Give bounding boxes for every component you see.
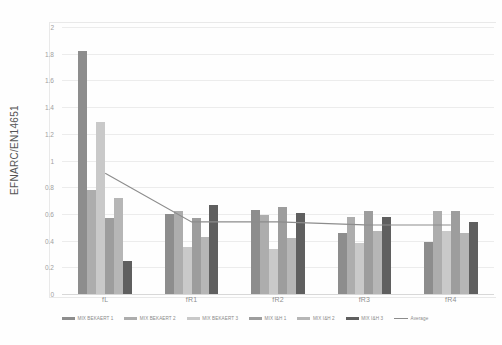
- legend-swatch-icon: [297, 317, 310, 321]
- bar: [165, 214, 174, 294]
- bar: [87, 190, 96, 294]
- bar: [442, 231, 451, 294]
- x-axis-tick-label: fR4: [408, 296, 494, 303]
- x-axis-tick-label: fR3: [321, 296, 407, 303]
- y-axis-tick-label: 1: [50, 157, 54, 164]
- legend-item[interactable]: MIX I&H 1: [249, 316, 286, 321]
- bar-set: [424, 27, 478, 294]
- legend-label: Average: [411, 316, 429, 321]
- y-axis-tick-label: 1.4: [45, 104, 54, 111]
- bar: [260, 215, 269, 294]
- bar: [209, 205, 218, 294]
- bar: [469, 222, 478, 294]
- y-axis-tick-label: 0.8: [45, 184, 54, 191]
- bar: [373, 231, 382, 294]
- x-axis-tick-label: fR1: [148, 296, 234, 303]
- bar: [355, 243, 364, 294]
- legend-swatch-icon: [62, 317, 75, 321]
- y-axis-tick-label: 1.6: [45, 77, 54, 84]
- bar: [364, 211, 373, 294]
- bar-set: [338, 27, 392, 294]
- bar: [114, 198, 123, 294]
- y-axis-tick-label: 2: [50, 24, 54, 31]
- bar: [251, 210, 260, 294]
- y-axis-tick-label: 1.2: [45, 130, 54, 137]
- bar-group: [408, 27, 494, 294]
- legend-swatch-icon: [187, 317, 200, 321]
- chart-legend: MIX BEKAERT 1MIX BEKAERT 2MIX BEKAERT 3M…: [62, 316, 494, 321]
- bar-group: [321, 27, 407, 294]
- y-axis-tick-label: 0.2: [45, 264, 54, 271]
- bar: [347, 217, 356, 294]
- legend-label: MIX I&H 2: [313, 316, 335, 321]
- bar: [183, 247, 192, 294]
- legend-label: MIX I&H 1: [265, 316, 287, 321]
- legend-swatch-icon: [124, 317, 137, 321]
- bar: [269, 249, 278, 294]
- bar-group: [235, 27, 321, 294]
- legend-label: MIX BEKAERT 3: [202, 316, 238, 321]
- bar: [192, 218, 201, 294]
- y-axis-tick-label: 0.6: [45, 210, 54, 217]
- y-axis-tick-label: 0: [50, 291, 54, 298]
- bar: [174, 211, 183, 294]
- y-axis-tick-label: 1.8: [45, 50, 54, 57]
- bar: [105, 218, 114, 294]
- bar: [78, 51, 87, 294]
- legend-item[interactable]: MIX I&H 2: [297, 316, 334, 321]
- bar-group: [62, 27, 148, 294]
- legend-swatch-icon: [249, 317, 262, 321]
- x-axis-tick-labels: fLfR1fR2fR3fR4: [62, 296, 494, 303]
- legend-label: MIX BEKAERT 1: [78, 316, 114, 321]
- x-axis-tick-label: fL: [62, 296, 148, 303]
- legend-label: MIX BEKAERT 2: [140, 316, 176, 321]
- bar-set: [165, 27, 219, 294]
- bar: [123, 261, 132, 294]
- bar: [296, 213, 305, 294]
- bar: [382, 217, 391, 294]
- y-axis-tick-label: 0.4: [45, 237, 54, 244]
- legend-item-average[interactable]: Average: [394, 316, 428, 321]
- bar: [287, 238, 296, 294]
- bar-groups: [62, 27, 494, 294]
- gridline: [62, 294, 494, 295]
- legend-item[interactable]: MIX I&H 3: [346, 316, 383, 321]
- bar: [278, 207, 287, 294]
- bar: [433, 211, 442, 294]
- chart-container: EFNARC/EN14651 00.20.40.60.811.21.41.61.…: [0, 0, 502, 345]
- bar: [460, 233, 469, 294]
- bar: [424, 242, 433, 294]
- legend-item[interactable]: MIX BEKAERT 2: [124, 316, 175, 321]
- bar: [201, 237, 210, 294]
- bar: [96, 122, 105, 294]
- bar-set: [251, 27, 305, 294]
- x-axis-tick-label: fR2: [235, 296, 321, 303]
- y-axis-tick-labels: 00.20.40.60.811.21.41.61.82: [0, 27, 58, 294]
- legend-item[interactable]: MIX BEKAERT 3: [187, 316, 238, 321]
- legend-line-icon: [394, 318, 408, 320]
- legend-item[interactable]: MIX BEKAERT 1: [62, 316, 113, 321]
- bar-set: [78, 27, 132, 294]
- bar: [451, 211, 460, 294]
- bar-group: [148, 27, 234, 294]
- legend-label: MIX I&H 3: [361, 316, 383, 321]
- legend-swatch-icon: [346, 317, 359, 321]
- bar: [338, 233, 347, 294]
